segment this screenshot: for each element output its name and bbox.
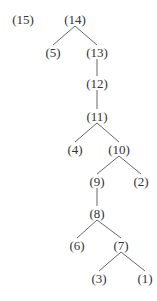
tree-node-8: (8): [89, 206, 104, 221]
tree-node-9: (9): [89, 174, 104, 189]
tree-node-1: (1): [137, 271, 152, 286]
edge-8-7: [97, 220, 121, 238]
tree-node-10: (10): [108, 142, 130, 157]
tree-node-13: (13): [86, 45, 108, 60]
edge-8-6: [77, 220, 97, 238]
edge-14-13: [75, 26, 97, 45]
tree-node-5: (5): [45, 45, 60, 60]
tree-diagram: (15)(14)(5)(13)(12)(11)(4)(10)(9)(2)(8)(…: [0, 0, 157, 301]
tree-node-11: (11): [86, 109, 107, 124]
tree-node-4: (4): [67, 142, 82, 157]
tree-node-2: (2): [133, 174, 148, 189]
tree-node-15: (15): [12, 12, 34, 27]
edge-10-2: [119, 156, 141, 174]
tree-node-14: (14): [64, 12, 86, 27]
edge-14-5: [53, 26, 75, 45]
tree-node-3: (3): [91, 271, 106, 286]
edge-10-9: [97, 156, 119, 174]
tree-nodes: (15)(14)(5)(13)(12)(11)(4)(10)(9)(2)(8)(…: [12, 12, 152, 286]
tree-node-6: (6): [69, 238, 84, 253]
edge-11-10: [97, 123, 119, 142]
edge-7-1: [121, 252, 145, 271]
edge-11-4: [75, 123, 97, 142]
edge-7-3: [99, 252, 121, 271]
tree-node-12: (12): [86, 76, 108, 91]
tree-node-7: (7): [113, 238, 128, 253]
